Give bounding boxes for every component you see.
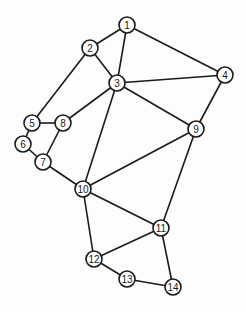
node-label: 9 — [193, 124, 199, 135]
graph-diagram: 1234567891011121314 — [0, 0, 246, 312]
node-8: 8 — [55, 115, 71, 131]
node-11: 11 — [153, 220, 169, 236]
node-label: 11 — [156, 223, 167, 234]
node-label: 5 — [29, 118, 35, 129]
node-label: 8 — [60, 118, 66, 129]
node-label: 12 — [88, 254, 100, 265]
node-6: 6 — [15, 136, 31, 152]
nodes-layer: 1234567891011121314 — [15, 17, 233, 295]
node-label: 2 — [87, 43, 93, 54]
node-label: 13 — [121, 274, 133, 285]
node-label: 6 — [20, 139, 26, 150]
edge-2-5 — [32, 48, 90, 123]
node-10: 10 — [75, 181, 91, 197]
node-12: 12 — [86, 251, 102, 267]
node-7: 7 — [35, 154, 51, 170]
node-label: 10 — [77, 184, 89, 195]
node-label: 14 — [167, 282, 179, 293]
edge-3-9 — [117, 83, 196, 129]
edge-10-11 — [83, 189, 161, 228]
edge-3-4 — [117, 75, 225, 83]
edge-10-12 — [83, 189, 94, 259]
edge-11-12 — [94, 228, 161, 259]
graph-svg: 1234567891011121314 — [0, 0, 246, 312]
edge-1-4 — [127, 25, 225, 75]
node-14: 14 — [165, 279, 181, 295]
node-1: 1 — [119, 17, 135, 33]
node-label: 3 — [114, 78, 120, 89]
edge-1-3 — [117, 25, 127, 83]
node-label: 4 — [222, 70, 228, 81]
node-5: 5 — [24, 115, 40, 131]
edge-4-9 — [196, 75, 225, 129]
node-9: 9 — [188, 121, 204, 137]
node-3: 3 — [109, 75, 125, 91]
node-4: 4 — [217, 67, 233, 83]
node-label: 1 — [124, 20, 130, 31]
edge-9-11 — [161, 129, 196, 228]
node-13: 13 — [119, 271, 135, 287]
edge-3-8 — [63, 83, 117, 123]
node-label: 7 — [40, 157, 46, 168]
edges-layer — [23, 25, 225, 287]
edge-11-14 — [161, 228, 173, 287]
node-2: 2 — [82, 40, 98, 56]
